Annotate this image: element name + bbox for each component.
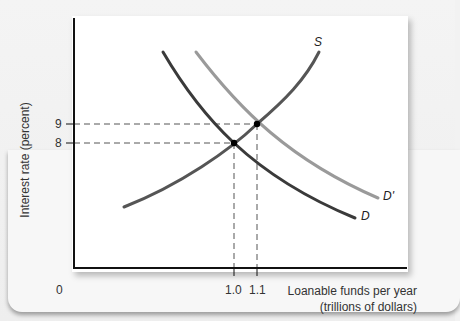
x-tick-label-1-1: 1.1 xyxy=(249,283,266,297)
y-axis-label: Interest rate (percent) xyxy=(18,102,32,217)
x-axis-label-line1: Loanable funds per year xyxy=(288,283,417,299)
demand-curve-d-prime xyxy=(196,52,378,198)
demand-curve-label: D xyxy=(361,209,370,223)
y-tick-label-9: 9 xyxy=(55,117,62,131)
x-tick-label-1-0: 1.0 xyxy=(225,283,242,297)
demand-curve-d xyxy=(163,52,355,218)
supply-curve-label: S xyxy=(314,35,322,49)
origin-label: 0 xyxy=(56,283,63,297)
equilibrium-point-new xyxy=(254,121,260,127)
equilibrium-point-initial xyxy=(231,140,237,146)
x-axis-label-line2: (trillions of dollars) xyxy=(288,299,417,315)
demand-shifted-curve-label: D' xyxy=(383,189,394,203)
x-axis-label: Loanable funds per year (trillions of do… xyxy=(288,283,417,315)
y-tick-label-8: 8 xyxy=(55,136,62,150)
